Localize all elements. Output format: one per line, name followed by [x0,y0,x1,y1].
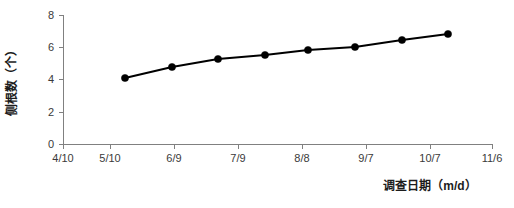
data-point [168,63,175,70]
y-tick-label: 6 [48,41,54,53]
y-tick-label: 0 [48,138,54,150]
data-point [398,36,405,43]
x-tick-label: 5/10 [99,152,120,164]
x-axis-title: 调查日期（m/d） [383,178,476,193]
y-tick-label: 4 [48,73,54,85]
data-point [121,74,128,81]
x-tick-label: 8/8 [294,152,309,164]
x-tick-label: 6/9 [166,152,181,164]
data-point [444,30,451,37]
x-tick-label: 4/10 [52,152,73,164]
x-axis-tick-labels: 4/10 5/10 6/9 7/9 8/8 9/7 10/7 11/6 [52,152,502,164]
chart-canvas: 0 2 4 6 8 4/10 5/10 6/9 [0,0,514,208]
y-tick-label: 2 [48,106,54,118]
y-tick-label: 8 [48,9,54,21]
x-tick-label: 9/7 [358,152,373,164]
x-tick-label: 10/7 [419,152,440,164]
data-point [304,46,311,53]
y-axis-tick-labels: 0 2 4 6 8 [48,9,54,150]
x-tick-label: 7/9 [230,152,245,164]
data-point [351,43,358,50]
chart-screenshot: 0 2 4 6 8 4/10 5/10 6/9 [0,0,514,208]
line-chart: 0 2 4 6 8 4/10 5/10 6/9 [0,0,514,208]
data-point [261,51,268,58]
data-point [214,55,221,62]
y-axis-title: 侧根数（个） [4,44,19,116]
y-axis-ticks [59,16,63,145]
x-tick-label: 11/6 [482,152,503,164]
series-markers [121,30,451,81]
